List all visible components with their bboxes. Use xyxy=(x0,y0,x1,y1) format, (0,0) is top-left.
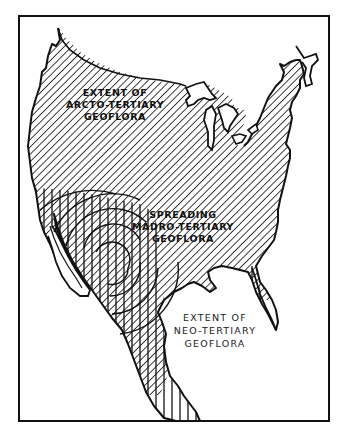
neo-tertiary-label: EXTENT OF NEO-TERTIARY GEOFLORA xyxy=(160,311,270,350)
neo-label-line3: GEOFLORA xyxy=(160,337,270,350)
madro-label-line1: SPREADING xyxy=(118,209,248,221)
arcto-tertiary-label: EXTENT OF ARCTO-TERTIARY GEOFLORA xyxy=(50,87,180,123)
madro-tertiary-label: SPREADING MADRO-TERTIARY GEOFLORA xyxy=(118,209,248,245)
neo-label-line2: NEO-TERTIARY xyxy=(160,324,270,337)
arcto-label-line2: ARCTO-TERTIARY xyxy=(50,99,180,111)
arcto-label-line1: EXTENT OF xyxy=(50,87,180,99)
madro-label-line3: GEOFLORA xyxy=(118,233,248,245)
neo-label-line1: EXTENT OF xyxy=(160,311,270,324)
arcto-label-line3: GEOFLORA xyxy=(50,111,180,123)
geoflora-map: EXTENT OF ARCTO-TERTIARY GEOFLORA SPREAD… xyxy=(0,0,341,438)
madro-label-line2: MADRO-TERTIARY xyxy=(118,221,248,233)
